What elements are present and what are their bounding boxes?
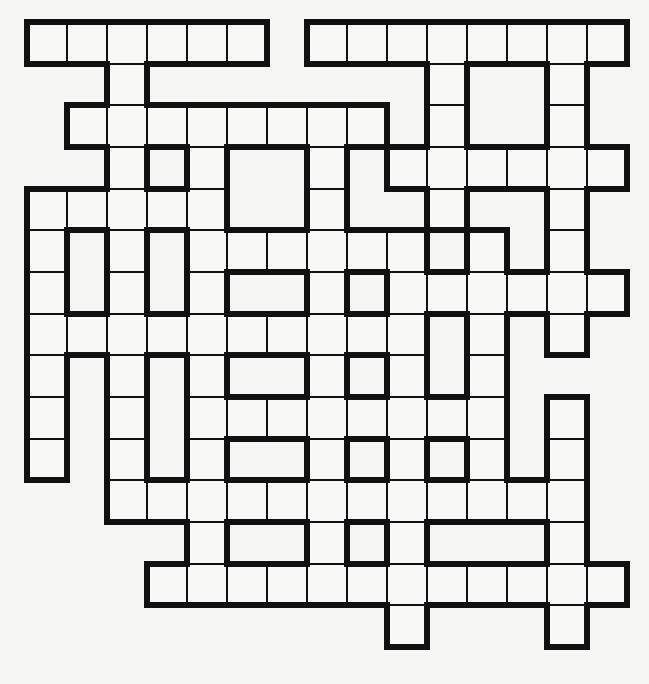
grid-cell[interactable] xyxy=(227,397,267,439)
grid-cell[interactable] xyxy=(307,397,347,439)
grid-cell[interactable] xyxy=(307,22,347,64)
grid-cell[interactable] xyxy=(227,314,267,356)
grid-cell[interactable] xyxy=(467,272,507,314)
grid-cell[interactable] xyxy=(587,22,627,64)
grid-cell[interactable] xyxy=(187,189,227,231)
grid-cell[interactable] xyxy=(547,564,587,606)
grid-cell[interactable] xyxy=(67,22,107,64)
grid-cell[interactable] xyxy=(387,439,427,481)
grid-cell[interactable] xyxy=(227,230,267,272)
grid-cell[interactable] xyxy=(547,64,587,106)
grid-cell[interactable] xyxy=(187,564,227,606)
grid-cell[interactable] xyxy=(187,314,227,356)
grid-cell[interactable] xyxy=(467,480,507,522)
grid-cell[interactable] xyxy=(147,480,187,522)
grid-cell[interactable] xyxy=(347,22,387,64)
grid-cell[interactable] xyxy=(27,439,67,481)
grid-cell[interactable] xyxy=(187,230,227,272)
grid-cell[interactable] xyxy=(67,189,107,231)
grid-cell[interactable] xyxy=(307,314,347,356)
grid-cell[interactable] xyxy=(187,272,227,314)
grid-cell[interactable] xyxy=(347,564,387,606)
grid-cell[interactable] xyxy=(547,105,587,147)
grid-cell[interactable] xyxy=(27,189,67,231)
grid-cell[interactable] xyxy=(467,147,507,189)
grid-cell[interactable] xyxy=(187,397,227,439)
grid-cell[interactable] xyxy=(227,564,267,606)
grid-cell[interactable] xyxy=(427,480,467,522)
grid-cell[interactable] xyxy=(27,355,67,397)
grid-cell[interactable] xyxy=(147,105,187,147)
grid-cell[interactable] xyxy=(307,439,347,481)
grid-cell[interactable] xyxy=(307,522,347,564)
grid-cell[interactable] xyxy=(187,147,227,189)
grid-cell[interactable] xyxy=(387,605,427,647)
grid-cell[interactable] xyxy=(267,105,307,147)
grid-cell[interactable] xyxy=(547,147,587,189)
grid-cell[interactable] xyxy=(267,314,307,356)
grid-cell[interactable] xyxy=(187,22,227,64)
grid-cell[interactable] xyxy=(347,480,387,522)
grid-cell[interactable] xyxy=(187,439,227,481)
grid-cell[interactable] xyxy=(427,397,467,439)
grid-cell[interactable] xyxy=(467,22,507,64)
grid-cell[interactable] xyxy=(227,22,267,64)
grid-cell[interactable] xyxy=(427,189,467,231)
grid-cell[interactable] xyxy=(107,64,147,106)
grid-cell[interactable] xyxy=(587,272,627,314)
grid-cell[interactable] xyxy=(107,189,147,231)
grid-cell[interactable] xyxy=(427,147,467,189)
grid-cell[interactable] xyxy=(427,22,467,64)
grid-cell[interactable] xyxy=(267,397,307,439)
grid-cell[interactable] xyxy=(387,22,427,64)
grid-cell[interactable] xyxy=(27,272,67,314)
grid-cell[interactable] xyxy=(107,480,147,522)
grid-cell[interactable] xyxy=(27,230,67,272)
grid-cell[interactable] xyxy=(187,355,227,397)
grid-cell[interactable] xyxy=(347,230,387,272)
grid-cell[interactable] xyxy=(547,314,587,356)
grid-cell[interactable] xyxy=(147,564,187,606)
grid-cell[interactable] xyxy=(227,105,267,147)
grid-cell[interactable] xyxy=(547,522,587,564)
grid-cell[interactable] xyxy=(427,564,467,606)
grid-cell[interactable] xyxy=(387,480,427,522)
grid-cell[interactable] xyxy=(347,314,387,356)
grid-cell[interactable] xyxy=(507,272,547,314)
grid-cell[interactable] xyxy=(107,230,147,272)
grid-cell[interactable] xyxy=(387,230,427,272)
grid-cell[interactable] xyxy=(467,355,507,397)
grid-cell[interactable] xyxy=(147,22,187,64)
grid-cell[interactable] xyxy=(547,22,587,64)
grid-cell[interactable] xyxy=(27,22,67,64)
grid-cell[interactable] xyxy=(387,564,427,606)
grid-cell[interactable] xyxy=(547,272,587,314)
grid-cell[interactable] xyxy=(107,397,147,439)
grid-cell[interactable] xyxy=(147,189,187,231)
grid-cell[interactable] xyxy=(427,105,467,147)
grid-cell[interactable] xyxy=(107,439,147,481)
grid-cell[interactable] xyxy=(267,480,307,522)
grid-cell[interactable] xyxy=(107,272,147,314)
grid-cell[interactable] xyxy=(27,314,67,356)
grid-cell[interactable] xyxy=(547,230,587,272)
grid-cell[interactable] xyxy=(147,314,187,356)
grid-cell[interactable] xyxy=(187,522,227,564)
grid-cell[interactable] xyxy=(467,564,507,606)
grid-cell[interactable] xyxy=(547,397,587,439)
grid-cell[interactable] xyxy=(107,105,147,147)
grid-cell[interactable] xyxy=(387,272,427,314)
grid-cell[interactable] xyxy=(307,147,347,189)
grid-cell[interactable] xyxy=(307,480,347,522)
grid-cell[interactable] xyxy=(427,272,467,314)
grid-cell[interactable] xyxy=(107,355,147,397)
grid-cell[interactable] xyxy=(67,314,107,356)
grid-cell[interactable] xyxy=(107,147,147,189)
grid-cell[interactable] xyxy=(307,230,347,272)
grid-cell[interactable] xyxy=(307,564,347,606)
grid-cell[interactable] xyxy=(507,480,547,522)
grid-cell[interactable] xyxy=(467,230,507,272)
grid-cell[interactable] xyxy=(387,147,427,189)
grid-cell[interactable] xyxy=(547,480,587,522)
grid-cell[interactable] xyxy=(507,564,547,606)
